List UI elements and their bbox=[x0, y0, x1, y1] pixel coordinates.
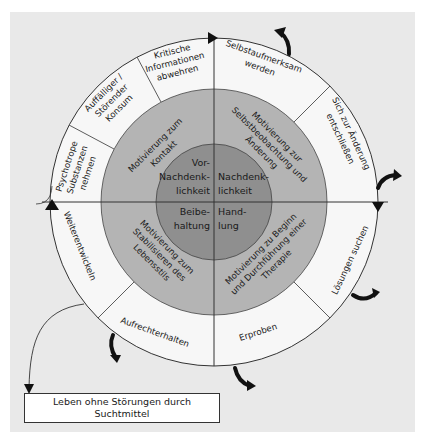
result-box: Leben ohne Störungen durch Suchtmittel bbox=[24, 393, 220, 423]
inner-tr-line1: Nachdenk- bbox=[218, 171, 269, 182]
relapse-arrowhead-bottom bbox=[247, 380, 256, 391]
inner-bl-line2: haltung bbox=[174, 220, 210, 231]
stages-of-change-diagram: Vor- Nachdenk- lichkeit Nachdenk- lichke… bbox=[0, 0, 427, 445]
inner-br-line1: Hand- bbox=[218, 206, 246, 217]
inner-tl-line2: Nachdenk- bbox=[159, 171, 210, 182]
relapse-arrow-right-bottom bbox=[353, 293, 376, 299]
inner-tl-line3: lichkeit bbox=[176, 185, 210, 196]
inner-br-line2: lung bbox=[218, 220, 239, 231]
inner-bl-line1: Beibe- bbox=[180, 206, 210, 217]
inner-tr-line2: lichkeit bbox=[218, 185, 252, 196]
relapse-arrow-right-top bbox=[378, 175, 396, 188]
relapse-arrowhead-right-top bbox=[393, 169, 402, 181]
result-box-line1: Leben ohne Störungen durch bbox=[53, 396, 191, 408]
inner-tl-line1: Vor- bbox=[192, 157, 210, 168]
relapse-arrowhead-bottom-left bbox=[110, 355, 121, 363]
exit-arrow-line bbox=[29, 304, 84, 388]
result-box-line2: Suchtmittel bbox=[95, 408, 150, 420]
relapse-arrow-bottom-left bbox=[111, 335, 116, 358]
